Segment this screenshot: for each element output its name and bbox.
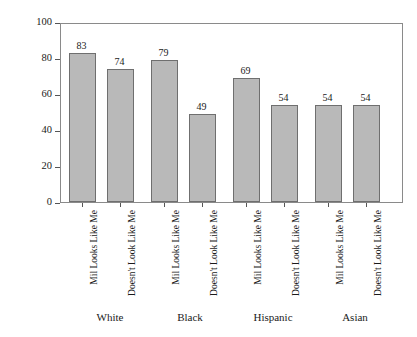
bar	[151, 60, 178, 202]
plot-area	[60, 23, 403, 203]
x-axis-tick-mark	[328, 203, 329, 207]
bar-value-label: 49	[178, 101, 225, 112]
bar-value-label: 54	[260, 92, 307, 103]
x-axis-category-label: Doesn't Look Like Me	[126, 210, 139, 302]
x-axis-tick-mark	[246, 203, 247, 207]
x-axis-category-label: Mil Looks Like Me	[88, 210, 101, 302]
y-axis-tick-label: 60	[42, 88, 53, 99]
x-axis-tick-mark	[82, 203, 83, 207]
y-axis-tick-label: 20	[42, 160, 53, 171]
x-axis-category-label: Doesn't Look Like Me	[208, 210, 221, 302]
bar	[189, 114, 216, 202]
x-axis-category-label: Mil Looks Like Me	[334, 210, 347, 302]
x-axis-group-label: White	[65, 311, 155, 323]
bar	[271, 105, 298, 202]
y-axis-title: 'A Great Deal' + 'Quite A Lot' of Confid…	[2, 0, 42, 210]
bar	[69, 53, 96, 202]
x-axis-tick-mark	[284, 203, 285, 207]
y-axis-tick-mark	[55, 203, 60, 204]
y-axis-tick: 0	[0, 203, 60, 204]
bar-value-label: 83	[58, 40, 105, 51]
x-axis-group-label: Black	[145, 311, 235, 323]
y-axis-tick-label: 80	[42, 52, 53, 63]
bar	[353, 105, 380, 202]
y-axis-tick: 40	[0, 131, 60, 132]
bar	[233, 78, 260, 202]
bar-chart-figure: 'A Great Deal' + 'Quite A Lot' of Confid…	[0, 0, 417, 337]
x-axis-category-label: Doesn't Look Like Me	[290, 210, 303, 302]
y-axis-tick: 60	[0, 95, 60, 96]
bar-value-label: 54	[342, 92, 389, 103]
x-axis-category-label: Mil Looks Like Me	[252, 210, 265, 302]
x-axis-tick-mark	[120, 203, 121, 207]
y-axis-tick: 100	[0, 23, 60, 24]
bar	[315, 105, 342, 202]
x-axis-category-label: Mil Looks Like Me	[170, 210, 183, 302]
x-axis-category-label: Doesn't Look Like Me	[372, 210, 385, 302]
x-axis-tick-mark	[202, 203, 203, 207]
bar	[107, 69, 134, 202]
bar-value-label: 79	[140, 47, 187, 58]
x-axis-tick-mark	[366, 203, 367, 207]
y-axis-tick-label: 40	[42, 124, 53, 135]
y-axis-tick: 80	[0, 59, 60, 60]
x-axis-group-label: Hispanic	[228, 311, 318, 323]
y-axis-tick-label: 0	[47, 196, 52, 207]
y-axis-tick: 20	[0, 167, 60, 168]
x-axis-group-label: Asian	[310, 311, 400, 323]
x-axis-tick-mark	[164, 203, 165, 207]
bar-value-label: 74	[96, 56, 143, 67]
bar-value-label: 69	[222, 65, 269, 76]
y-axis-tick-label: 100	[36, 16, 52, 27]
